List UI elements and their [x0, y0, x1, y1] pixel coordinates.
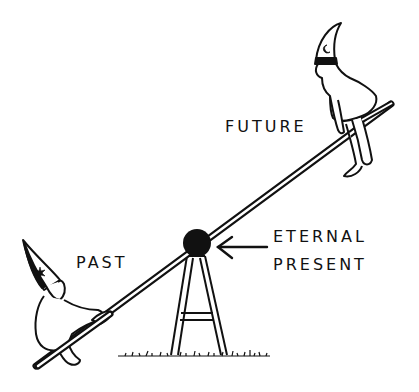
eternal-label: ETERNAL [273, 229, 367, 245]
arrow-icon [218, 237, 267, 258]
future-label: FUTURE [225, 119, 307, 135]
fulcrum-ball [183, 229, 211, 257]
present-label: PRESENT [273, 257, 367, 273]
seesaw-illustration: FUTURE PAST ETERNAL PRESENT [0, 0, 419, 392]
past-label: PAST [76, 255, 128, 271]
fulcrum-stand [171, 256, 227, 355]
seesaw-drawing [0, 0, 419, 392]
grass [118, 350, 270, 356]
